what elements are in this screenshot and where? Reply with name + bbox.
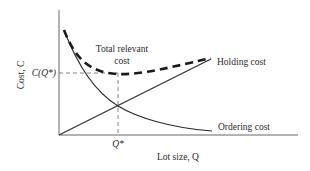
qstar-tick-label: Q* [112,139,124,149]
cqstar-tick-label: C(Q*) [32,68,56,79]
ordering-cost-label: Ordering cost [218,122,270,132]
holding-cost-label: Holding cost [217,57,266,67]
total-cost-label-line2: cost [114,56,130,66]
y-axis-title: Cost, C [16,61,26,90]
holding-cost-line [59,59,211,135]
x-axis-title: Lot size, Q [157,152,199,162]
total-cost-label-line1: Total relevant [96,44,149,54]
eoq-cost-chart: Total relevant cost Holding cost Orderin… [0,0,310,171]
